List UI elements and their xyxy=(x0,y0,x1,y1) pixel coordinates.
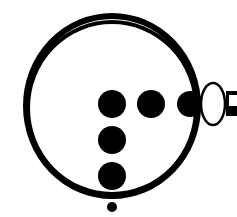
dot-right-1 xyxy=(137,90,165,118)
oval-knob xyxy=(201,83,225,125)
handle-bar xyxy=(226,91,237,116)
dot-down-2 xyxy=(98,162,126,190)
ring-dots-symbol xyxy=(0,0,237,217)
dot-down-1 xyxy=(98,126,126,154)
dot-corner xyxy=(98,90,126,118)
dot-small-below xyxy=(107,202,117,212)
dot-right-2 xyxy=(177,91,203,117)
